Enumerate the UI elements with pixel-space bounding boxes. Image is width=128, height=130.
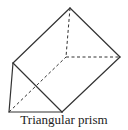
figure-caption: Triangular prism [0,112,128,128]
prism-edge [62,57,120,112]
prism-hidden-edge [66,8,70,57]
prism-edge [13,63,62,112]
prism-hidden-edge [9,57,66,112]
prism-edge [9,63,13,112]
triangular-prism-figure [0,0,128,130]
prism-edge [70,8,120,57]
hidden-dashed-edges [9,8,120,112]
prism-edge [13,8,70,63]
